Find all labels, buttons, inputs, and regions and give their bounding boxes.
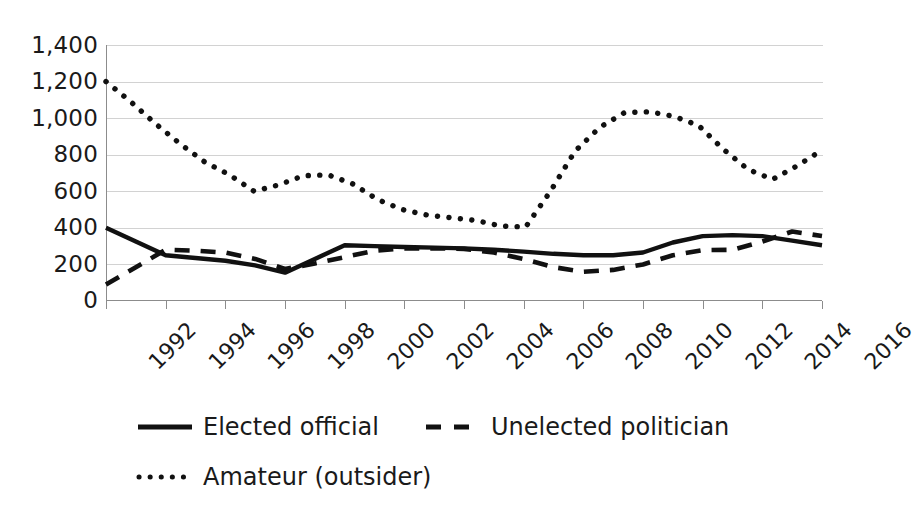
x-tick-mark — [285, 301, 286, 309]
y-tick-label: 1,400 — [6, 34, 98, 57]
gridline — [107, 118, 823, 119]
x-tick-label: 1994 — [204, 318, 261, 375]
x-tick-mark — [404, 301, 405, 309]
x-tick-mark — [106, 301, 107, 309]
y-tick-label: 0 — [6, 289, 98, 312]
legend-swatch-solid-icon — [136, 416, 194, 438]
x-tick-label: 2016 — [860, 318, 916, 375]
x-tick-mark — [524, 301, 525, 309]
gridline — [107, 45, 823, 46]
gridline — [107, 228, 823, 229]
x-tick-label: 2014 — [801, 318, 858, 375]
x-tick-mark — [762, 301, 763, 309]
y-tick-label: 1,200 — [6, 70, 98, 93]
y-tick-label: 200 — [6, 253, 98, 276]
x-tick-label: 2002 — [443, 318, 500, 375]
gridline — [107, 264, 823, 265]
legend-item-amateur-outsider: Amateur (outsider) — [136, 464, 431, 490]
legend-label: Amateur (outsider) — [203, 464, 431, 490]
chart-legend: Elected official Unelected politician Am… — [106, 408, 822, 514]
x-tick-mark — [643, 301, 644, 309]
x-tick-mark — [166, 301, 167, 309]
legend-item-unelected-politician: Unelected politician — [424, 414, 729, 440]
x-tick-label: 2012 — [741, 318, 798, 375]
gridline — [107, 191, 823, 192]
x-tick-mark — [225, 301, 226, 309]
gridline — [107, 82, 823, 83]
x-tick-mark — [583, 301, 584, 309]
plot-area — [106, 45, 822, 301]
x-tick-label: 2006 — [562, 318, 619, 375]
x-tick-label: 1998 — [323, 318, 380, 375]
x-tick-mark — [464, 301, 465, 309]
legend-item-elected-official: Elected official — [136, 414, 379, 440]
x-tick-mark — [703, 301, 704, 309]
y-tick-label: 800 — [6, 143, 98, 166]
x-tick-label: 2004 — [502, 318, 559, 375]
x-tick-label: 2000 — [383, 318, 440, 375]
y-tick-label: 400 — [6, 216, 98, 239]
legend-label: Elected official — [203, 414, 379, 440]
legend-label: Unelected politician — [491, 414, 729, 440]
y-tick-label: 600 — [6, 180, 98, 203]
x-tick-label: 2010 — [681, 318, 738, 375]
y-tick-label: 1,000 — [6, 107, 98, 130]
y-axis-labels: 1,400 1,200 1,000 800 600 400 200 0 — [0, 0, 98, 518]
x-tick-label: 1992 — [144, 318, 201, 375]
x-tick-label: 1996 — [264, 318, 321, 375]
legend-swatch-dotted-icon — [136, 466, 194, 488]
x-tick-mark — [345, 301, 346, 309]
gridline — [107, 155, 823, 156]
x-tick-label: 2008 — [622, 318, 679, 375]
legend-swatch-dashed-icon — [424, 416, 482, 438]
x-tick-mark — [822, 301, 823, 309]
